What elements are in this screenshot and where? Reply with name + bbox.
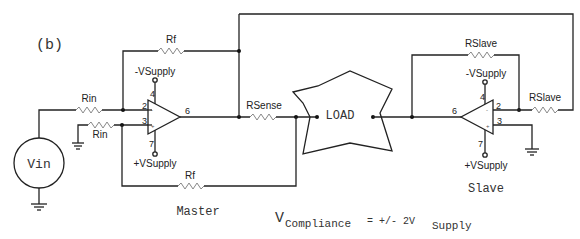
slave-pos-supply-label: +VSupply xyxy=(464,160,507,171)
formula-middle: = +/- 2V xyxy=(367,216,415,227)
slave-title: Slave xyxy=(468,182,504,196)
ground-icon xyxy=(525,149,539,155)
rslave-in-label: RSlave xyxy=(529,92,562,103)
svg-text:+: + xyxy=(151,123,155,129)
slave-neg-supply-label: -VSupply xyxy=(466,68,507,79)
resistor-rslave-input xyxy=(532,107,558,113)
load-block: LOAD xyxy=(293,71,392,154)
formula-sub-supply: Supply xyxy=(432,220,472,232)
rin-top-label: Rin xyxy=(81,93,96,104)
master-pin-4: 4 xyxy=(150,89,155,99)
formula-v: V xyxy=(275,210,284,227)
resistor-rin-top xyxy=(76,107,102,113)
master-pos-supply-label: +VSupply xyxy=(133,158,176,169)
master-pin-6: 6 xyxy=(185,106,190,116)
master-title: Master xyxy=(176,205,219,219)
ground-icon xyxy=(72,143,84,149)
pos-supply-terminal-icon xyxy=(153,152,157,156)
master-pin-7: 7 xyxy=(149,139,154,149)
voltage-source-vin: Vin xyxy=(14,138,64,188)
svg-text:+: + xyxy=(486,123,490,129)
rslave-fb-label: RSlave xyxy=(465,38,498,49)
slave-pin-6: 6 xyxy=(452,106,457,116)
vin-label: Vin xyxy=(27,157,50,172)
svg-text:-: - xyxy=(486,107,488,113)
master-pin-3: 3 xyxy=(142,116,147,126)
master-pin-2: 2 xyxy=(142,101,147,111)
pos-supply-terminal-icon xyxy=(483,153,487,157)
figure-label: (b) xyxy=(36,37,63,54)
rin-bottom-label: Rin xyxy=(92,129,107,140)
rsense-label: RSense xyxy=(246,100,282,111)
resistor-rsense xyxy=(250,114,276,120)
master-neg-supply-label: -VSupply xyxy=(135,66,176,77)
formula-sub-compliance: Compliance xyxy=(285,218,351,230)
load-label: LOAD xyxy=(326,109,355,123)
slave-pin-7: 7 xyxy=(478,139,483,149)
rf-top-label: Rf xyxy=(166,34,176,45)
circuit-diagram: (b) Vin Rin Rin - + 2 3 6 4 -VSupply xyxy=(0,0,580,239)
slave-opamp: - + 2 3 6 4 -VSupply 7 +VSupply xyxy=(452,68,508,171)
resistor-rf-top xyxy=(158,48,184,54)
neg-supply-terminal-icon xyxy=(153,78,157,82)
resistor-rin-bottom xyxy=(88,122,114,128)
rf-bottom-label: Rf xyxy=(185,170,195,181)
compliance-formula: V Compliance = +/- 2V Supply xyxy=(275,210,472,232)
resistor-rf-bottom xyxy=(178,183,204,189)
resistor-rslave-feedback xyxy=(468,52,494,58)
ground-icon xyxy=(31,204,47,210)
neg-supply-terminal-icon xyxy=(483,80,487,84)
slave-pin-4: 4 xyxy=(480,92,485,102)
